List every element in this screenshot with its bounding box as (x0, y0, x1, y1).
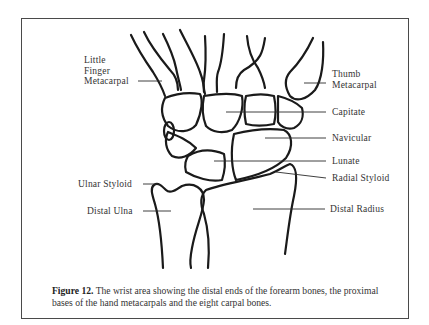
label-capitate: Capitate (332, 107, 365, 118)
label-lunate: Lunate (332, 156, 360, 167)
label-ulnar-styloid: Ulnar Styloid (78, 179, 132, 190)
label-radial-styloid: Radial Styloid (332, 173, 389, 184)
label-navicular: Navicular (332, 133, 371, 144)
figure-caption-text: The wrist area showing the distal ends o… (52, 285, 378, 308)
metacarpals (131, 30, 323, 99)
forearm-bones (152, 164, 296, 268)
figure-caption: Figure 12. The wrist area showing the di… (52, 285, 392, 309)
label-thumb-metacarpal: Thumb Metacarpal (332, 69, 377, 90)
figure-number: Figure 12. (52, 285, 93, 296)
wrist-bone-diagram (0, 0, 429, 325)
label-distal-ulna: Distal Ulna (87, 206, 133, 217)
label-distal-radius: Distal Radius (330, 204, 384, 215)
label-little-finger-metacarpal: Little Finger Metacarpal (84, 55, 129, 87)
